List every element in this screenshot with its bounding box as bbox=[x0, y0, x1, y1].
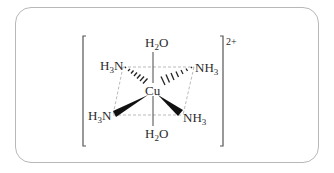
center-atom-cu: Cu bbox=[145, 83, 161, 98]
solid-wedge-lower-left bbox=[113, 95, 148, 117]
octahedral-complex-diagram: 2+ H2O H3N NH3 Cu H3N NH3 H2O bbox=[0, 0, 334, 173]
ligand-eq-lower-left: H3N bbox=[88, 108, 112, 125]
ligand-eq-upper-left: H3N bbox=[100, 58, 124, 75]
solid-wedge-lower-right bbox=[158, 95, 183, 116]
right-bracket bbox=[220, 36, 223, 146]
ligand-eq-upper-right: NH3 bbox=[195, 60, 219, 77]
left-bracket bbox=[83, 36, 86, 146]
hashed-wedge-upper-left bbox=[125, 67, 148, 84]
hashed-wedge-upper-right bbox=[161, 67, 192, 85]
ligand-eq-lower-right: NH3 bbox=[183, 110, 207, 127]
charge-label: 2+ bbox=[226, 36, 237, 47]
ligand-axial-top: H2O bbox=[145, 35, 168, 52]
ligand-axial-bottom: H2O bbox=[145, 126, 168, 143]
